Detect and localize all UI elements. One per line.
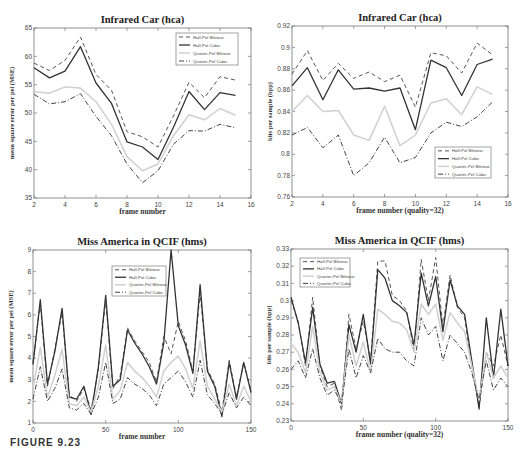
y-tick-label: 0.27 xyxy=(276,348,289,355)
chart-br-svg: Miss America in QCIF (hms)0501001500.230… xyxy=(0,0,530,450)
y-tick-label: 0.31 xyxy=(276,280,289,287)
x-tick-label: 0 xyxy=(289,424,293,431)
chart-legend: Half-Pel BilinearHalf-Pel CubicQuarter-P… xyxy=(300,258,355,287)
y-tick-label: 0.33 xyxy=(276,245,289,252)
legend-label: Half-Pel Cubic xyxy=(317,266,345,271)
y-tick-label: 0.3 xyxy=(280,297,289,304)
y-tick-label: 0.24 xyxy=(276,400,289,407)
y-tick-label: 0.28 xyxy=(276,331,289,338)
legend-label: Half-Pel Bilinear xyxy=(317,259,348,264)
figure-caption: FIGURE 9.23 xyxy=(10,437,81,448)
y-tick-label: 0.25 xyxy=(276,383,289,390)
y-axis-label: bits per sample (bpp) xyxy=(265,306,273,365)
chart-title: Miss America in QCIF (hms) xyxy=(335,235,465,247)
y-tick-label: 0.29 xyxy=(276,314,289,321)
legend-label: Quarter-Pel Bilinear xyxy=(317,274,355,279)
x-tick-label: 150 xyxy=(503,424,514,431)
y-tick-label: 0.23 xyxy=(276,417,289,424)
y-tick-label: 0.32 xyxy=(276,262,289,269)
legend-label: Quarter-Pel Cubic xyxy=(317,281,352,286)
x-axis-label: frame number (quality=32) xyxy=(356,430,444,439)
y-tick-label: 0.26 xyxy=(276,366,289,373)
series-line-quarter-pel-cubic xyxy=(291,318,508,404)
